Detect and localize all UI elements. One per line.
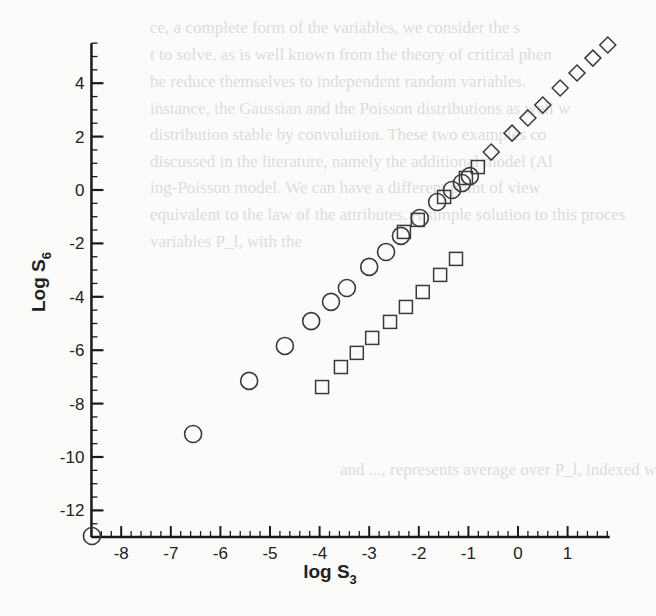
y-tick-label: -8	[69, 395, 84, 414]
circle-marker	[276, 337, 293, 354]
y-axis-label: Log S6	[28, 252, 54, 312]
circle-marker	[411, 210, 428, 227]
square-marker	[384, 315, 397, 328]
x-axis-label: log S3	[303, 561, 357, 587]
diamond-marker	[535, 97, 551, 113]
x-tick-label: -1	[461, 544, 476, 563]
y-tick-label: 2	[75, 128, 84, 147]
y-tick-label: -12	[60, 501, 85, 520]
diamond-marker	[569, 65, 585, 81]
y-tick-label: -6	[69, 341, 84, 360]
diamond-marker	[520, 110, 536, 126]
x-tick-label: -5	[262, 544, 277, 563]
diamond-marker	[504, 125, 520, 141]
x-tick-label: -3	[362, 544, 377, 563]
square-marker	[366, 331, 379, 344]
circle-marker	[303, 313, 320, 330]
diamond-marker	[585, 50, 601, 66]
diamond-marker	[600, 37, 616, 53]
circle-marker	[392, 227, 409, 244]
x-tick-label: -6	[213, 544, 228, 563]
square-marker	[450, 252, 463, 265]
circle-marker	[185, 426, 202, 443]
circle-marker	[323, 293, 340, 310]
square-marker	[316, 381, 329, 394]
x-axis-label-main: log S	[303, 561, 349, 582]
circle-marker	[338, 279, 355, 296]
y-tick-label: 0	[75, 181, 84, 200]
circle-marker	[378, 243, 395, 260]
x-tick-label: 0	[513, 544, 522, 563]
axes: -8-7-6-5-4-3-2-101-12-10-8-6-4-2024	[60, 43, 610, 563]
square-marker	[434, 268, 447, 281]
square-marker	[350, 346, 363, 359]
x-tick-label: -8	[114, 544, 129, 563]
y-tick-label: 4	[75, 74, 84, 93]
circle-marker	[361, 258, 378, 275]
data-markers	[83, 37, 615, 545]
y-tick-label: -10	[60, 448, 85, 467]
circle-marker	[241, 372, 258, 389]
square-marker	[416, 285, 429, 298]
y-tick-label: -4	[69, 288, 84, 307]
square-marker	[334, 361, 347, 374]
x-tick-label: -7	[163, 544, 178, 563]
square-marker	[399, 300, 412, 313]
x-tick-label: 1	[563, 544, 572, 563]
diamond-marker	[483, 144, 499, 160]
diamond-marker	[552, 80, 568, 96]
y-tick-label: -2	[69, 234, 84, 253]
x-tick-label: -2	[411, 544, 426, 563]
